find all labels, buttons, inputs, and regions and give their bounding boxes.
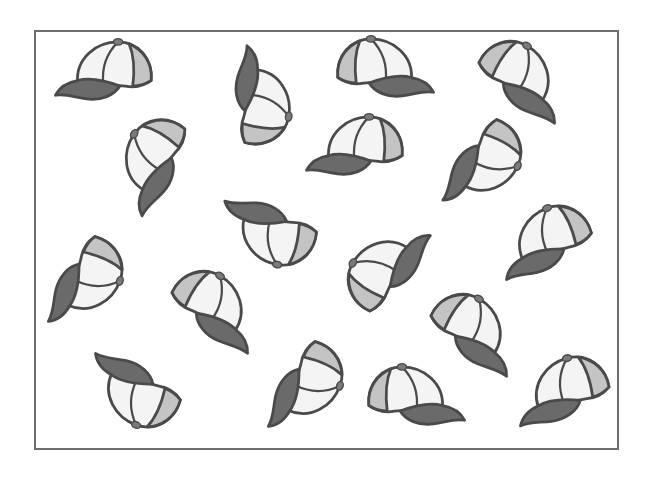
baseball-cap bbox=[215, 197, 320, 273]
baseball-cap bbox=[421, 279, 534, 379]
caps-illustration bbox=[0, 0, 648, 479]
baseball-cap bbox=[306, 114, 402, 175]
baseball-cap bbox=[338, 36, 434, 97]
baseball-cap bbox=[506, 346, 614, 429]
baseball-cap bbox=[96, 105, 201, 218]
caps-layer bbox=[45, 26, 615, 445]
baseball-cap bbox=[45, 230, 135, 341]
baseball-cap bbox=[162, 256, 275, 356]
baseball-cap bbox=[76, 350, 187, 440]
baseball-cap bbox=[369, 364, 465, 425]
baseball-cap bbox=[55, 39, 151, 100]
baseball-cap bbox=[439, 112, 534, 225]
baseball-cap bbox=[265, 335, 355, 446]
baseball-cap bbox=[469, 26, 582, 126]
baseball-cap bbox=[487, 194, 598, 284]
baseball-cap bbox=[226, 45, 302, 150]
baseball-cap bbox=[333, 207, 433, 320]
